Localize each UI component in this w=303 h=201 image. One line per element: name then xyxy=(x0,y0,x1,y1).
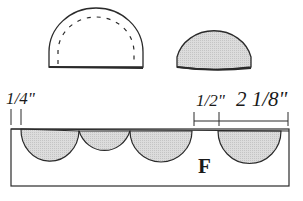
dimension-label-quarter: 1/4" xyxy=(6,89,36,108)
panel-label: F xyxy=(198,154,211,178)
panel-f: F xyxy=(11,129,289,186)
dimension-label-scallop-width: 2 1/8" xyxy=(236,87,288,111)
dimension-label-half: 1/2" xyxy=(196,91,226,110)
dimension-right: 1/2" 2 1/8" xyxy=(194,87,288,126)
half-circle-piece-shaded xyxy=(177,31,251,70)
dimension-left-margin: 1/4" xyxy=(6,89,36,125)
pattern-diagram: F 1/4" 1/2" 2 1/8" xyxy=(0,0,303,201)
half-circle-piece-dashed xyxy=(49,8,143,68)
